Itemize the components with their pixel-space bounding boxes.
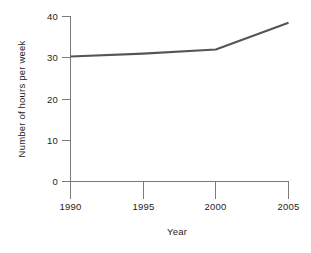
x-tick-label-2000: 2000 — [205, 201, 227, 212]
x-tick-label-1995: 1995 — [133, 201, 155, 212]
x-axis-title: Year — [167, 226, 187, 237]
chart-screenshot: 40 30 20 10 0 1990 1995 2000 2005 Year N… — [0, 0, 311, 253]
x-tick-label-2005: 2005 — [278, 201, 300, 212]
x-tick-label-1990: 1990 — [60, 201, 82, 212]
y-tick-label-30: 30 — [47, 52, 58, 63]
y-tick-label-0: 0 — [53, 176, 58, 187]
y-tick-label-20: 20 — [47, 94, 58, 105]
y-axis-title: Number of hours per week — [16, 41, 27, 158]
y-tick-label-10: 10 — [47, 135, 58, 146]
y-tick-label-40: 40 — [47, 11, 58, 22]
line-chart: 40 30 20 10 0 1990 1995 2000 2005 Year N… — [0, 0, 311, 253]
data-series-line — [71, 23, 289, 57]
